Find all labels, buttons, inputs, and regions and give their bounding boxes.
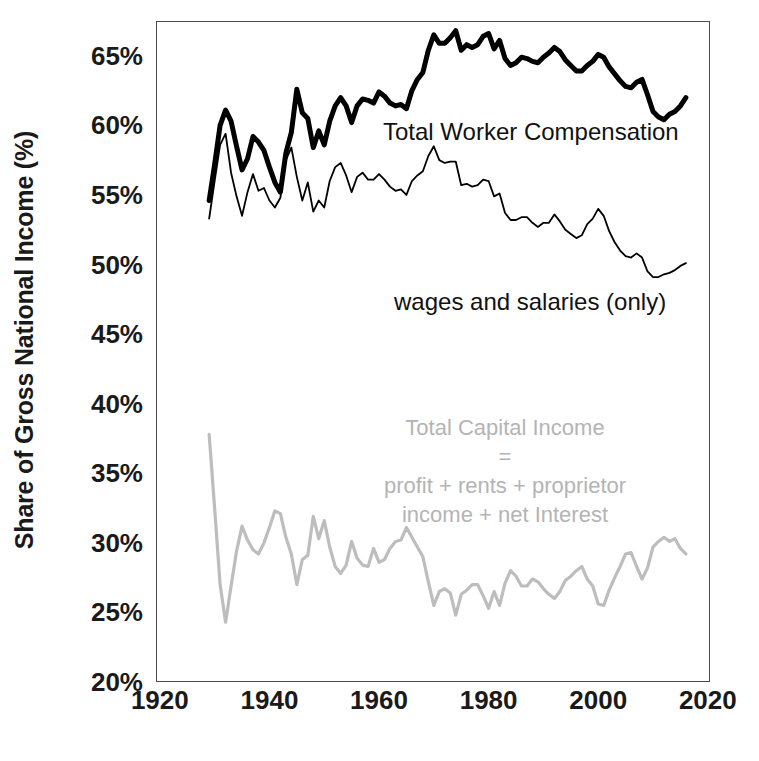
x-tick-label: 2020 bbox=[648, 685, 759, 716]
chart-figure: Share of Gross National Income (%) 20%25… bbox=[0, 0, 759, 761]
x-tick-label: 1940 bbox=[209, 685, 329, 716]
y-tick-label: 65% bbox=[38, 40, 143, 71]
y-axis-title: Share of Gross National Income (%) bbox=[10, 0, 39, 690]
capital-income-line-2: profit + rents + proprietor bbox=[355, 471, 655, 500]
capital-income-line-0: Total Capital Income bbox=[355, 413, 655, 442]
y-tick-label: 45% bbox=[38, 319, 143, 350]
series-label-wages-and-salaries: wages and salaries (only) bbox=[394, 288, 666, 316]
capital-income-line-1: = bbox=[355, 442, 655, 471]
x-tick-label: 2000 bbox=[538, 685, 658, 716]
x-tick-label: 1920 bbox=[100, 685, 220, 716]
y-tick-label: 35% bbox=[38, 458, 143, 489]
y-tick-label: 25% bbox=[38, 597, 143, 628]
y-tick-label: 55% bbox=[38, 179, 143, 210]
series-line-1 bbox=[209, 134, 686, 277]
series-label-total-worker-compensation: Total Worker Compensation bbox=[383, 118, 679, 146]
y-tick-label: 60% bbox=[38, 110, 143, 141]
series-line-0 bbox=[209, 31, 686, 201]
x-tick-label: 1960 bbox=[319, 685, 439, 716]
y-tick-label: 30% bbox=[38, 527, 143, 558]
y-tick-label: 40% bbox=[38, 388, 143, 419]
x-tick-label: 1980 bbox=[429, 685, 549, 716]
y-tick-label: 50% bbox=[38, 249, 143, 280]
capital-income-line-3: income + net Interest bbox=[355, 500, 655, 529]
series-label-total-capital-income: Total Capital Income=profit + rents + pr… bbox=[355, 413, 655, 529]
